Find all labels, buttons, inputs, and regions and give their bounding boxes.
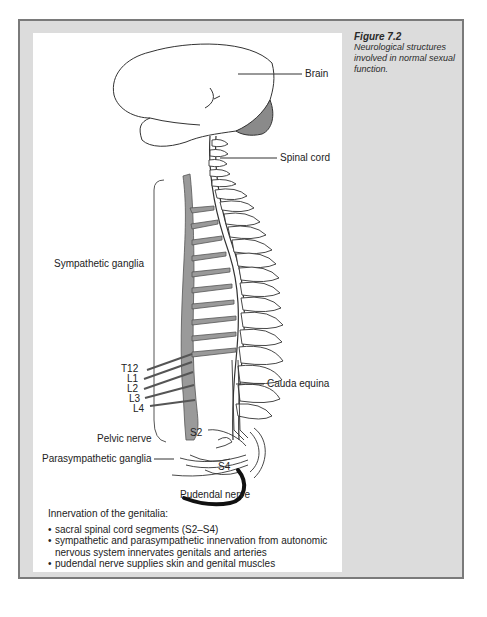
label-parasympathetic-ganglia: Parasympathetic ganglia	[42, 453, 152, 465]
label-spinal-cord: Spinal cord	[280, 152, 330, 164]
notes-list: sacral spinal cord segments (S2–S4) symp…	[48, 524, 348, 570]
label-l4: L4	[133, 403, 144, 415]
notes-item: sacral spinal cord segments (S2–S4)	[48, 524, 348, 536]
brain-icon	[113, 44, 274, 146]
notes-heading: Innervation of the genitalia:	[48, 508, 348, 520]
label-brain: Brain	[305, 68, 328, 80]
label-s2: S2	[190, 427, 202, 439]
label-sympathetic-ganglia: Sympathetic ganglia	[54, 258, 144, 270]
notes-item: sympathetic and parasympathetic innervat…	[48, 535, 348, 558]
label-cauda-equina: Cauda equina	[267, 378, 329, 390]
label-pudendal-nerve: Pudendal nerve	[180, 489, 250, 501]
innervation-notes: Innervation of the genitalia: sacral spi…	[48, 508, 348, 570]
notes-item: pudendal nerve supplies skin and genital…	[48, 558, 348, 570]
label-s4: S4	[218, 461, 230, 473]
label-pelvic-nerve: Pelvic nerve	[97, 433, 151, 445]
